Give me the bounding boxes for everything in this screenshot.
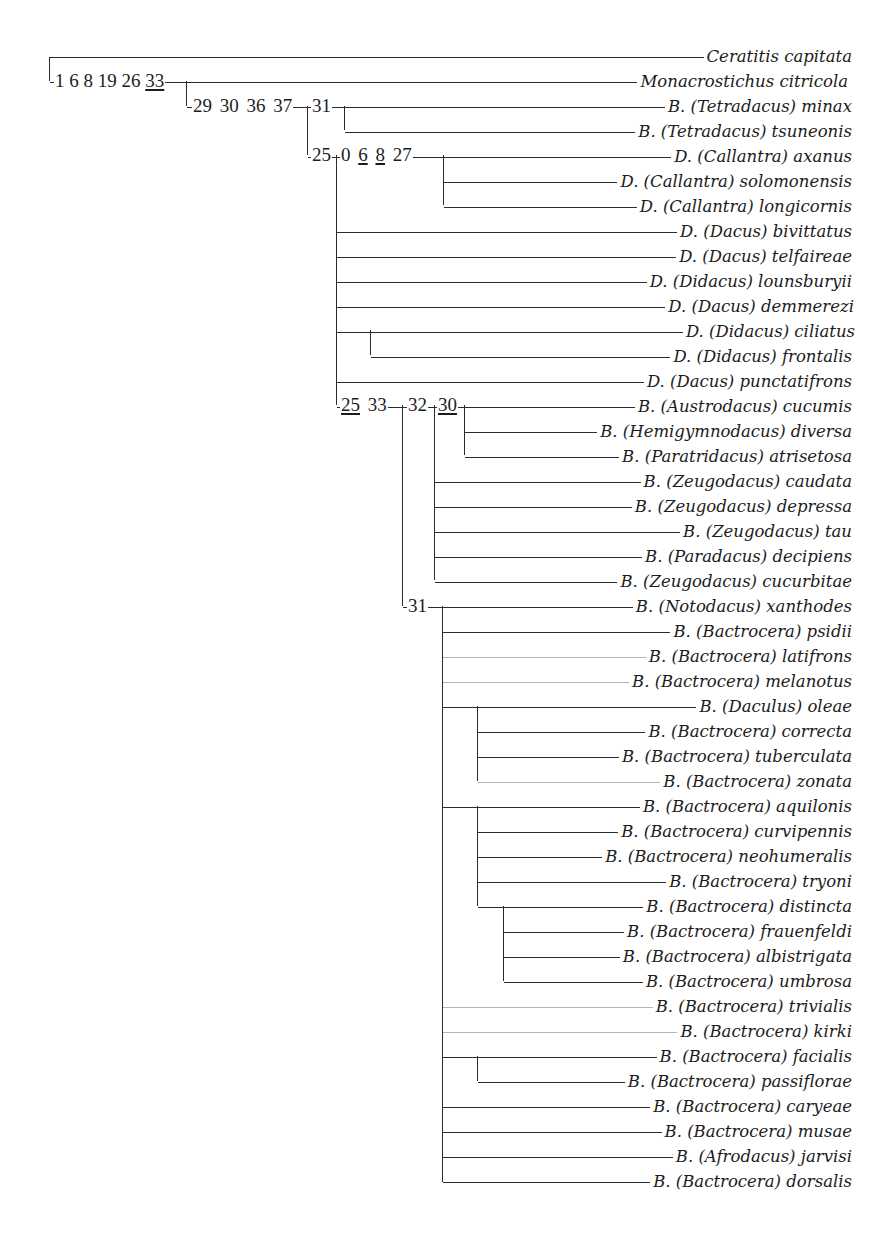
branch-line bbox=[443, 1182, 650, 1183]
taxon-row: D. (Callantra) longicornis bbox=[444, 195, 852, 219]
taxon-label: B. (Notodacus) xanthodes bbox=[633, 595, 852, 619]
taxon-row: B. (Bactrocera) frauenfeldi bbox=[504, 920, 852, 944]
taxon-row: D. (Dacus) bivittatus bbox=[337, 220, 852, 244]
branch-line bbox=[443, 1132, 662, 1133]
taxon-row: B. (Zeugodacus) caudata bbox=[435, 470, 852, 494]
character-states: 0 bbox=[341, 144, 358, 165]
taxon-label: B. (Bactrocera) musae bbox=[662, 1120, 852, 1144]
branch-line bbox=[504, 982, 643, 983]
character-label: 29 30 36 37 bbox=[192, 94, 293, 118]
character-label: 0 6 8 27 bbox=[340, 143, 413, 167]
taxon-label: B. (Bactrocera) caryeae bbox=[650, 1095, 852, 1119]
branch-line bbox=[478, 782, 660, 783]
taxon-row: B. (Bactrocera) aquilonis bbox=[443, 795, 852, 819]
branch-line bbox=[443, 632, 670, 633]
branch-line bbox=[435, 507, 632, 508]
taxon-label: D. (Didacus) ciliatus bbox=[683, 320, 855, 344]
branch-line bbox=[443, 707, 696, 708]
taxon-row: D. (Dacus) telfaireae bbox=[337, 245, 852, 269]
branch-line bbox=[337, 257, 676, 258]
taxon-label: B. (Bactrocera) aquilonis bbox=[640, 795, 852, 819]
character-state-underlined: 8 bbox=[376, 144, 386, 165]
branch-line bbox=[478, 907, 643, 908]
branch-line bbox=[443, 1032, 677, 1033]
branch-line bbox=[337, 282, 647, 283]
branch-line bbox=[478, 757, 619, 758]
taxon-label: B. (Bactrocera) kirki bbox=[677, 1020, 852, 1044]
taxon-label: B. (Bactrocera) distincta bbox=[643, 895, 852, 919]
character-states bbox=[368, 144, 376, 165]
branch-line bbox=[444, 207, 637, 208]
taxon-label: D. (Dacus) telfaireae bbox=[676, 245, 852, 269]
character-states: 32 bbox=[408, 394, 427, 415]
taxon-row: Monacrostichus citricola bbox=[50, 70, 848, 94]
clade-connector-bactrocera bbox=[402, 405, 403, 606]
taxon-row: B. (Bactrocera) zonata bbox=[478, 770, 852, 794]
branch-line bbox=[435, 482, 641, 483]
taxon-row: B. (Bactrocera) albistrigata bbox=[504, 945, 852, 969]
taxon-label: B. (Bactrocera) passiflorae bbox=[625, 1070, 852, 1094]
taxon-row: B. (Bactrocera) tryoni bbox=[478, 870, 852, 894]
taxon-label: B. (Bactrocera) latifrons bbox=[646, 645, 852, 669]
branch-line bbox=[478, 882, 666, 883]
taxon-row: B. (Bactrocera) neohumeralis bbox=[478, 845, 852, 869]
taxon-row: B. (Bactrocera) correcta bbox=[478, 720, 852, 744]
taxon-label: D. (Callantra) axanus bbox=[671, 145, 852, 169]
branch-line bbox=[345, 132, 635, 133]
taxon-row: D. (Dacus) punctatifrons bbox=[337, 370, 852, 394]
character-label: 25 bbox=[311, 143, 332, 167]
taxon-label: B. (Zeugodacus) depressa bbox=[632, 495, 852, 519]
character-states: 27 bbox=[385, 144, 412, 165]
branch-line bbox=[443, 657, 646, 658]
taxon-label: B. (Bactrocera) tryoni bbox=[666, 870, 852, 894]
taxon-row: B. (Bactrocera) tuberculata bbox=[478, 745, 852, 769]
taxon-row: B. (Bactrocera) curvipennis bbox=[478, 820, 852, 844]
branch-line bbox=[443, 682, 629, 683]
branch-line bbox=[443, 807, 640, 808]
taxon-label: B. (Bactrocera) tuberculata bbox=[619, 745, 852, 769]
taxon-row: Ceratitis capitata bbox=[50, 45, 852, 69]
branch-line bbox=[443, 1107, 650, 1108]
taxon-label: D. (Callantra) longicornis bbox=[637, 195, 852, 219]
taxon-label: B. (Bactrocera) zonata bbox=[660, 770, 852, 794]
branch-line bbox=[337, 332, 683, 333]
taxon-label: B. (Zeugodacus) cucurbitae bbox=[617, 570, 852, 594]
taxon-label: D. (Dacus) punctatifrons bbox=[644, 370, 852, 394]
taxon-row: B. (Zeugodacus) tau bbox=[435, 520, 852, 544]
taxon-row: B. (Bactrocera) distincta bbox=[478, 895, 852, 919]
taxon-row: B. (Bactrocera) caryeae bbox=[443, 1095, 852, 1119]
taxon-label: D. (Didacus) frontalis bbox=[670, 345, 852, 369]
taxon-row: B. (Bactrocera) kirki bbox=[443, 1020, 852, 1044]
character-label: 30 bbox=[437, 393, 458, 417]
character-label: 25 33 bbox=[340, 393, 388, 417]
taxon-label: B. (Zeugodacus) tau bbox=[680, 520, 852, 544]
character-state-underlined: 33 bbox=[145, 70, 164, 91]
taxon-label: B. (Paradacus) decipiens bbox=[642, 545, 852, 569]
cladogram: Ceratitis capitata Monacrostichus citric… bbox=[0, 0, 895, 1235]
taxon-row: D. (Callantra) solomonensis bbox=[444, 170, 852, 194]
taxon-row: B. (Hemigymnodacus) diversa bbox=[465, 420, 852, 444]
taxon-row: B. (Bactrocera) melanotus bbox=[443, 670, 852, 694]
taxon-label: D. (Dacus) demmerezi bbox=[665, 295, 854, 319]
taxon-label: B. (Bactrocera) facialis bbox=[657, 1045, 852, 1069]
taxon-row: B. (Paratridacus) atrisetosa bbox=[465, 445, 852, 469]
branch-line bbox=[478, 732, 645, 733]
taxon-row: B. (Bactrocera) passiflorae bbox=[478, 1070, 852, 1094]
branch-line bbox=[478, 832, 618, 833]
branch-line bbox=[50, 57, 704, 58]
character-states: 25 bbox=[312, 144, 331, 165]
branch-line bbox=[337, 232, 677, 233]
taxon-row: D. (Dacus) demmerezi bbox=[337, 295, 854, 319]
taxon-label: B. (Hemigymnodacus) diversa bbox=[597, 420, 852, 444]
branch-line bbox=[504, 932, 624, 933]
taxon-label: D. (Didacus) lounsburyii bbox=[647, 270, 852, 294]
branch-line bbox=[504, 957, 620, 958]
taxon-row: B. (Bactrocera) latifrons bbox=[443, 645, 852, 669]
taxon-label: B. (Zeugodacus) caudata bbox=[641, 470, 852, 494]
taxon-label: B. (Bactrocera) albistrigata bbox=[620, 945, 852, 969]
taxon-row: B. (Afrodacus) jarvisi bbox=[443, 1145, 852, 1169]
character-states: 33 bbox=[360, 394, 387, 415]
character-state-underlined: 6 bbox=[358, 144, 368, 165]
taxon-label: B. (Paratridacus) atrisetosa bbox=[619, 445, 852, 469]
taxon-label: D. (Callantra) solomonensis bbox=[617, 170, 852, 194]
